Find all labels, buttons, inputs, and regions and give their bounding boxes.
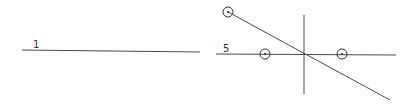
figure-5: 5 — [216, 7, 396, 100]
diagram-canvas: 1 5 — [0, 0, 418, 111]
circled-point-left-center-dot — [264, 53, 266, 55]
figure-label: 5 — [223, 43, 229, 54]
figure-label: 1 — [33, 39, 39, 50]
figure-1: 1 — [22, 39, 200, 52]
diagonal-line — [228, 12, 390, 100]
circled-point-right-center-dot — [341, 53, 343, 55]
horizontal-line — [22, 50, 200, 52]
circled-point-top-left-center-dot — [227, 11, 229, 13]
